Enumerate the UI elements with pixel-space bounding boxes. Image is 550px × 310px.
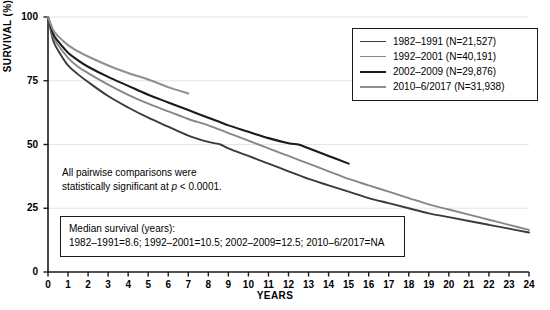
x-tick-label: 4 xyxy=(117,279,139,290)
survival-chart: SURVIVAL (%) YEARS 0255075100 0123456789… xyxy=(0,0,550,310)
x-tick-label: 2 xyxy=(77,279,99,290)
legend-label: 2010–6/2017 (N=31,938) xyxy=(393,81,504,92)
legend-item: 1992–2001 (N=40,191) xyxy=(360,49,530,64)
y-tick-label: 100 xyxy=(4,11,38,22)
legend-item: 2002–2009 (N=29,876) xyxy=(360,64,530,79)
x-tick-label: 22 xyxy=(478,279,500,290)
legend-swatch xyxy=(360,86,386,88)
x-tick-label: 20 xyxy=(438,279,460,290)
x-tick-label: 16 xyxy=(358,279,380,290)
legend-swatch xyxy=(360,71,386,73)
x-tick-label: 23 xyxy=(498,279,520,290)
curve-2002–2009 xyxy=(48,17,349,164)
median-box-title: Median survival (years): xyxy=(69,222,396,236)
y-tick-label: 0 xyxy=(4,266,38,277)
x-tick-label: 12 xyxy=(278,279,300,290)
median-box-values: 1982–1991=8.6; 1992–2001=10.5; 2002–2009… xyxy=(69,236,396,250)
x-tick-label: 0 xyxy=(37,279,59,290)
y-tick-label: 75 xyxy=(4,75,38,86)
sig-suffix: < 0.0001. xyxy=(177,181,222,192)
x-tick-label: 21 xyxy=(458,279,480,290)
x-tick-label: 10 xyxy=(237,279,259,290)
x-tick-label: 17 xyxy=(378,279,400,290)
legend-swatch xyxy=(360,56,386,57)
x-tick-label: 14 xyxy=(318,279,340,290)
median-survival-box: Median survival (years): 1982–1991=8.6; … xyxy=(60,216,405,257)
x-tick-label: 13 xyxy=(298,279,320,290)
x-tick-label: 15 xyxy=(338,279,360,290)
x-tick-label: 24 xyxy=(518,279,540,290)
x-tick-label: 7 xyxy=(177,279,199,290)
x-tick-label: 3 xyxy=(97,279,119,290)
legend-label: 1982–1991 (N=21,527) xyxy=(393,36,496,47)
legend-item: 1982–1991 (N=21,527) xyxy=(360,34,530,49)
legend-swatch xyxy=(360,41,386,42)
legend: 1982–1991 (N=21,527)1992–2001 (N=40,191)… xyxy=(352,28,538,101)
y-tick-label: 25 xyxy=(4,202,38,213)
significance-note-line2: statistically significant at p < 0.0001. xyxy=(62,180,222,194)
significance-note-line1: All pairwise comparisons were xyxy=(62,166,222,180)
significance-note: All pairwise comparisons were statistica… xyxy=(62,166,222,194)
x-tick-label: 11 xyxy=(257,279,279,290)
x-tick-label: 8 xyxy=(197,279,219,290)
x-tick-label: 19 xyxy=(418,279,440,290)
x-tick-label: 5 xyxy=(137,279,159,290)
x-tick-label: 18 xyxy=(398,279,420,290)
y-tick-label: 50 xyxy=(4,139,38,150)
legend-label: 2002–2009 (N=29,876) xyxy=(393,66,496,77)
x-tick-label: 9 xyxy=(217,279,239,290)
x-tick-label: 1 xyxy=(57,279,79,290)
x-tick-label: 6 xyxy=(157,279,179,290)
legend-item: 2010–6/2017 (N=31,938) xyxy=(360,79,530,94)
sig-prefix: statistically significant at xyxy=(62,181,172,192)
legend-label: 1992–2001 (N=40,191) xyxy=(393,51,496,62)
